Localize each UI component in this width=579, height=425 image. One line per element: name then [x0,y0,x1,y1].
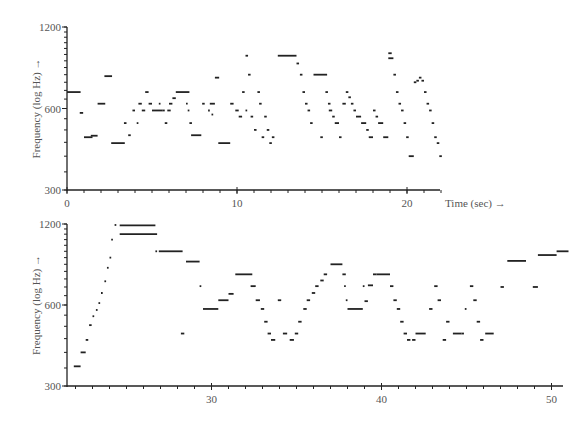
pitch-track-figure: 3006001200Frequency (log Hz) →01020Time … [0,0,579,425]
y-tick-label: 1200 [39,21,62,33]
x-tick-label: 50 [546,393,558,405]
x-axis-title: Time (sec) → [445,197,506,210]
bottom-panel: 3006001200Frequency (log Hz) →304050 [30,218,569,405]
y-tick-label: 300 [45,184,62,196]
top-panel: 3006001200Frequency (log Hz) →01020Time … [30,21,506,210]
y-tick-label: 600 [45,103,62,115]
x-tick-label: 0 [64,197,70,209]
y-tick-label: 600 [45,299,62,311]
x-tick-label: 10 [232,197,244,209]
x-tick-label: 20 [402,197,414,209]
x-tick-label: 30 [206,393,218,405]
x-tick-label: 40 [376,393,388,405]
y-axis-title: Frequency (log Hz) → [30,59,43,159]
y-tick-label: 300 [45,380,62,392]
y-axis-title: Frequency (log Hz) → [30,255,43,355]
y-tick-label: 1200 [39,218,62,230]
